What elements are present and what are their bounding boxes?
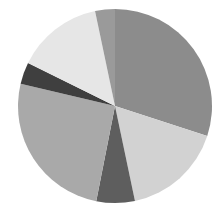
pie-chart bbox=[0, 0, 218, 216]
pie-chart-svg bbox=[0, 0, 218, 216]
